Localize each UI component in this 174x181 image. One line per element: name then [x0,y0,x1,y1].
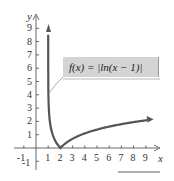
curve-right-arrow-icon [147,116,154,123]
y-tick-label: 8 [27,37,32,47]
y-axis-label: y [27,10,32,22]
function-label-box: f(x) = |ln(x − 1)| [63,57,159,77]
curve-up-arrow-icon [46,24,51,32]
x-tick-label: 1 [45,153,50,163]
x-tick-label: 6 [106,153,111,163]
y-tick-label: 3 [27,103,32,113]
y-tick-label: -1 [22,158,30,168]
x-axis-label: x [158,152,163,164]
y-tick-label: 6 [27,63,32,73]
x-tick-label: 2 [57,153,62,163]
y-tick-label: 2 [27,116,32,126]
x-tick-label: 7 [118,153,123,163]
y-tick-label: 9 [27,23,32,33]
x-tick-label: 8 [131,153,136,163]
function-curve [48,35,147,148]
y-tick-label: 1 [27,130,32,140]
y-tick-label: 5 [27,77,32,87]
x-tick-label: 3 [70,153,75,163]
x-tick-label: 5 [94,153,99,163]
callout-leader [50,77,63,92]
y-tick-label: 4 [27,90,32,100]
x-tick-label: 4 [82,153,87,163]
x-tick-label: 9 [143,153,148,163]
y-tick-label: 7 [27,50,32,60]
